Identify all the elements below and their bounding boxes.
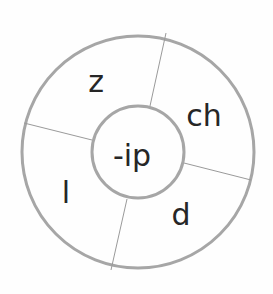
segment-label-z: z <box>88 64 104 99</box>
divider-bottom <box>111 199 127 270</box>
divider-right <box>184 163 251 180</box>
divider-top <box>150 33 166 106</box>
divider-left <box>24 123 92 140</box>
segment-label-d: d <box>171 197 190 232</box>
segment-label-l: l <box>62 175 70 210</box>
segment-label-ch: ch <box>186 98 222 133</box>
word-wheel-diagram: -ip z ch d l <box>0 0 273 294</box>
center-label: -ip <box>113 138 151 173</box>
word-wheel-svg: -ip z ch d l <box>0 0 273 294</box>
